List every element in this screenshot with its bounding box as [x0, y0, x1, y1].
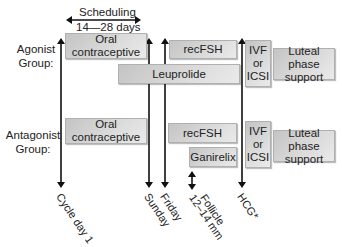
agonist-oral-contraceptive-box: Oral contraceptive	[65, 33, 147, 59]
scheduling-title: Scheduling	[79, 6, 136, 18]
antagonist-recfsh-box: recFSH	[168, 123, 237, 143]
agonist-recfsh-box: recFSH	[169, 40, 237, 59]
antagonist-luteal-support-box: Luteal phase support	[273, 130, 335, 162]
agonist-leuprolide-box: Leuprolide	[118, 64, 240, 84]
agonist-luteal-support-box: Luteal phase support	[273, 48, 335, 80]
antagonist-ganirelix-box: Ganirelix	[189, 147, 237, 167]
antagonist-ivf-icsi-box: IVF or ICSI	[245, 121, 271, 168]
antagonist-group-label: Antagonist Group:	[2, 128, 64, 156]
scheduling-duration: 14—28 days	[76, 21, 141, 33]
antagonist-oral-contraceptive-box: Oral contraceptive	[65, 118, 147, 144]
agonist-ivf-icsi-box: IVF or ICSI	[245, 40, 271, 87]
agonist-group-label: Agonist Group:	[8, 42, 64, 70]
